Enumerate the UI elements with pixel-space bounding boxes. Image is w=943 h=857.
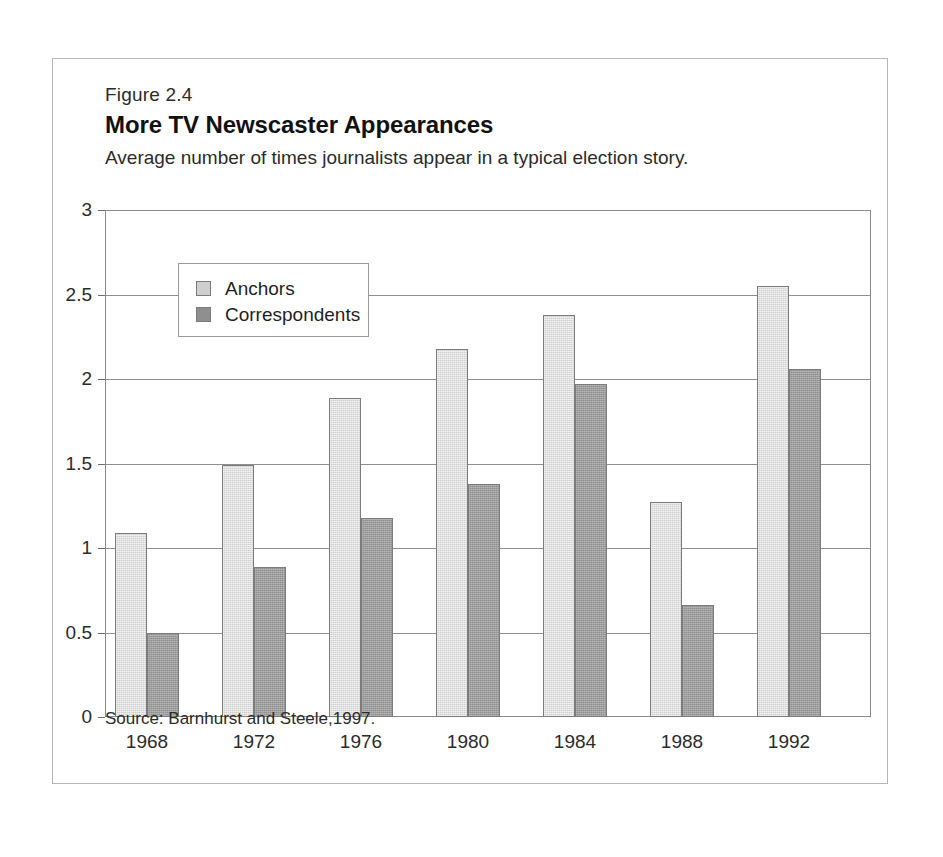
y-axis-label: 1.5 [66,453,92,475]
bar-anchors-1976 [329,398,361,717]
y-axis-label: 3 [81,199,92,221]
bar-correspondents-1992 [789,369,821,717]
x-axis-label-1988: 1988 [650,731,714,753]
bar-anchors-1980 [436,349,468,717]
legend-label: Anchors [225,279,295,298]
legend-label: Correspondents [225,305,360,324]
figure-number: Figure 2.4 [105,84,193,106]
legend-swatch-icon [196,307,211,322]
x-axis-label-1984: 1984 [543,731,607,753]
bar-group [650,210,714,717]
y-axis-label: 2 [81,368,92,390]
x-axis-label-1980: 1980 [436,731,500,753]
x-axis-label-1968: 1968 [115,731,179,753]
y-axis-label: 0 [81,706,92,728]
bar-anchors-1988 [650,502,682,717]
x-axis-label-1992: 1992 [757,731,821,753]
y-axis-label: 2.5 [66,284,92,306]
bar-anchors-1972 [222,465,254,717]
bar-correspondents-1976 [361,518,393,717]
bar-group [543,210,607,717]
bar-anchors-1992 [757,286,789,717]
y-axis-label: 0.5 [66,622,92,644]
figure-frame: Figure 2.4 More TV Newscaster Appearance… [52,58,888,784]
legend-item-correspondents: Correspondents [196,301,368,327]
y-axis-tick [98,464,105,465]
figure-subtitle: Average number of times journalists appe… [105,147,688,169]
bar-correspondents-1984 [575,384,607,717]
bar-correspondents-1972 [254,567,286,717]
legend-swatch-icon [196,281,211,296]
x-axis-label-1972: 1972 [222,731,286,753]
legend-item-anchors: Anchors [196,275,368,301]
x-axis-label-1976: 1976 [329,731,393,753]
bar-group [757,210,821,717]
y-axis-tick [98,210,105,211]
bar-anchors-1984 [543,315,575,717]
y-axis-tick [98,379,105,380]
figure-title: More TV Newscaster Appearances [105,111,493,139]
y-axis-tick [98,295,105,296]
chart-legend: AnchorsCorrespondents [178,263,369,337]
bar-group [436,210,500,717]
bar-correspondents-1988 [682,605,714,717]
bar-chart: 00.511.522.53 19681972197619801984198819… [105,210,871,717]
bar-correspondents-1968 [147,633,179,718]
source-note: Source: Barnhurst and Steele,1997. [105,709,375,729]
y-axis-tick [98,548,105,549]
y-axis-label: 1 [81,537,92,559]
bar-group [115,210,179,717]
bar-anchors-1968 [115,533,147,717]
y-axis-tick [98,633,105,634]
y-axis-tick [98,717,105,718]
bar-correspondents-1980 [468,484,500,717]
